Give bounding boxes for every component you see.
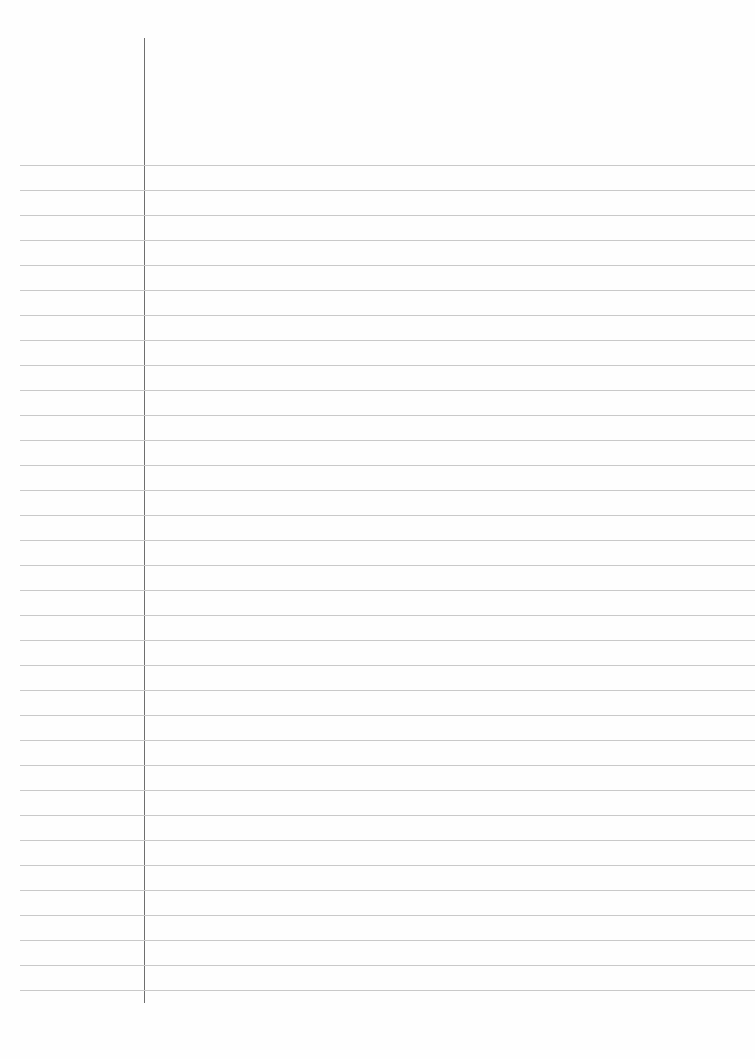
ruled-line: [20, 490, 755, 491]
ruled-line: [20, 565, 755, 566]
ruled-line: [20, 465, 755, 466]
ruled-line: [20, 415, 755, 416]
ruled-line: [20, 390, 755, 391]
ruled-line: [20, 165, 755, 166]
ruled-line: [20, 915, 755, 916]
ruled-line: [20, 715, 755, 716]
ruled-line: [20, 190, 755, 191]
ruled-line: [20, 240, 755, 241]
ruled-line: [20, 615, 755, 616]
ruled-line: [20, 440, 755, 441]
ruled-line: [20, 890, 755, 891]
ruled-line: [20, 815, 755, 816]
ruled-line: [20, 215, 755, 216]
ruled-line: [20, 990, 755, 991]
ruled-line: [20, 865, 755, 866]
ruled-line: [20, 965, 755, 966]
ruled-line: [20, 765, 755, 766]
ruled-line: [20, 315, 755, 316]
ruled-line: [20, 340, 755, 341]
ruled-line: [20, 590, 755, 591]
ruled-line: [20, 740, 755, 741]
ruled-line: [20, 365, 755, 366]
ruled-line: [20, 290, 755, 291]
ruled-line: [20, 790, 755, 791]
ruled-line: [20, 540, 755, 541]
ruled-line: [20, 840, 755, 841]
ruled-line: [20, 515, 755, 516]
lined-paper: [0, 0, 755, 1059]
ruled-line: [20, 640, 755, 641]
ruled-line: [20, 265, 755, 266]
margin-line: [144, 38, 145, 1003]
ruled-line: [20, 690, 755, 691]
ruled-line: [20, 665, 755, 666]
ruled-line: [20, 940, 755, 941]
